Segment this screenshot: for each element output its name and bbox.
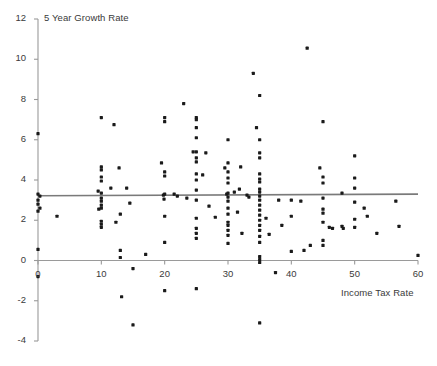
data-point bbox=[226, 221, 229, 224]
data-point bbox=[258, 258, 261, 261]
data-point bbox=[195, 287, 198, 290]
data-point bbox=[226, 242, 229, 245]
data-point bbox=[226, 191, 229, 194]
x-axis-tick-label: 40 bbox=[280, 268, 302, 279]
data-point bbox=[247, 196, 250, 199]
data-point bbox=[195, 199, 198, 202]
data-point bbox=[36, 210, 39, 213]
data-point bbox=[226, 138, 229, 141]
data-point bbox=[163, 289, 166, 292]
data-point bbox=[100, 165, 103, 168]
data-point bbox=[318, 166, 321, 169]
data-point bbox=[195, 232, 198, 235]
data-point bbox=[226, 170, 229, 173]
data-point bbox=[258, 156, 261, 159]
data-point bbox=[290, 199, 293, 202]
data-point bbox=[163, 174, 166, 177]
data-point bbox=[192, 150, 195, 153]
data-point bbox=[321, 197, 324, 200]
data-point bbox=[258, 209, 261, 212]
data-point bbox=[321, 244, 324, 247]
data-point bbox=[258, 235, 261, 238]
x-axis-tick-label: 50 bbox=[344, 268, 366, 279]
data-point bbox=[258, 204, 261, 207]
data-point bbox=[397, 225, 400, 228]
data-point bbox=[226, 207, 229, 210]
y-axis-tick-label: 12 bbox=[4, 12, 26, 23]
data-point bbox=[290, 250, 293, 253]
data-point bbox=[195, 126, 198, 129]
data-point bbox=[163, 120, 166, 123]
data-point bbox=[100, 197, 103, 200]
data-point bbox=[100, 226, 103, 229]
data-point bbox=[353, 176, 356, 179]
data-point bbox=[258, 187, 261, 190]
data-point bbox=[238, 187, 241, 190]
data-point bbox=[36, 203, 39, 206]
data-point bbox=[195, 172, 198, 175]
data-point bbox=[416, 254, 419, 257]
data-point bbox=[258, 177, 261, 180]
data-point bbox=[163, 192, 166, 195]
data-point bbox=[195, 118, 198, 121]
data-point bbox=[236, 211, 239, 214]
data-point bbox=[195, 156, 198, 159]
data-point bbox=[36, 199, 39, 202]
data-point bbox=[258, 321, 261, 324]
data-point bbox=[226, 176, 229, 179]
data-point bbox=[233, 190, 236, 193]
data-point bbox=[207, 205, 210, 208]
data-point bbox=[363, 207, 366, 210]
x-axis-tick-label: 30 bbox=[217, 268, 239, 279]
y-axis-tick-label: 8 bbox=[4, 93, 26, 104]
data-point bbox=[321, 208, 324, 211]
data-point bbox=[258, 261, 261, 264]
data-point bbox=[274, 271, 277, 274]
data-point bbox=[36, 132, 39, 135]
data-point bbox=[38, 207, 41, 210]
data-point bbox=[258, 172, 261, 175]
data-point bbox=[195, 150, 198, 153]
data-point bbox=[195, 227, 198, 230]
data-point bbox=[340, 191, 343, 194]
data-point bbox=[258, 180, 261, 183]
data-point bbox=[342, 227, 345, 230]
data-point bbox=[255, 126, 258, 129]
data-point bbox=[226, 161, 229, 164]
data-point bbox=[144, 253, 147, 256]
data-point bbox=[302, 249, 305, 252]
data-point bbox=[100, 223, 103, 226]
y-axis-tick-label: -4 bbox=[4, 334, 26, 345]
data-point bbox=[195, 136, 198, 139]
data-point bbox=[163, 116, 166, 119]
data-point bbox=[182, 102, 185, 105]
data-point bbox=[226, 200, 229, 203]
data-point bbox=[277, 199, 280, 202]
data-point bbox=[366, 215, 369, 218]
data-point bbox=[353, 154, 356, 157]
data-point bbox=[36, 248, 39, 251]
data-point bbox=[109, 186, 112, 189]
data-point bbox=[100, 116, 103, 119]
data-point bbox=[321, 239, 324, 242]
data-point bbox=[375, 232, 378, 235]
y-axis-tick-label: -2 bbox=[4, 294, 26, 305]
data-point bbox=[119, 256, 122, 259]
data-point-group bbox=[36, 47, 419, 327]
data-point bbox=[38, 195, 41, 198]
data-point bbox=[195, 217, 198, 220]
data-point bbox=[160, 161, 163, 164]
data-point bbox=[290, 215, 293, 218]
data-point bbox=[173, 192, 176, 195]
data-point bbox=[100, 220, 103, 223]
data-point bbox=[119, 249, 122, 252]
y-axis-tick-label: 0 bbox=[4, 254, 26, 265]
data-point bbox=[321, 175, 324, 178]
data-point bbox=[299, 200, 302, 203]
data-point bbox=[100, 179, 103, 182]
data-point bbox=[55, 215, 58, 218]
data-point bbox=[100, 200, 103, 203]
data-point bbox=[119, 213, 122, 216]
data-point bbox=[195, 160, 198, 163]
x-axis-tick-label: 60 bbox=[407, 268, 429, 279]
